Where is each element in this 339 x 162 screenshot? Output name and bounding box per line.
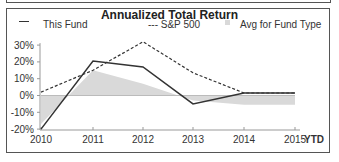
y-tick-label: 0% — [20, 90, 35, 101]
x-ytd-label: YTD — [304, 134, 324, 145]
y-tick-label: 20% — [14, 56, 34, 67]
y-tick-label: 10% — [14, 73, 34, 84]
x-tick-label: 2011 — [82, 134, 104, 145]
x-tick-label: 2014 — [233, 134, 256, 145]
chart-plot: 30%20%10%0%-10%-20%201020112012201320142… — [0, 0, 339, 162]
x-tick-label: 2012 — [132, 134, 155, 145]
x-tick-label: 2010 — [30, 134, 53, 145]
y-tick-label: -10% — [11, 107, 34, 118]
y-tick-label: -20% — [11, 124, 34, 135]
x-tick-label: 2013 — [182, 134, 205, 145]
y-tick-label: 30% — [14, 40, 34, 51]
